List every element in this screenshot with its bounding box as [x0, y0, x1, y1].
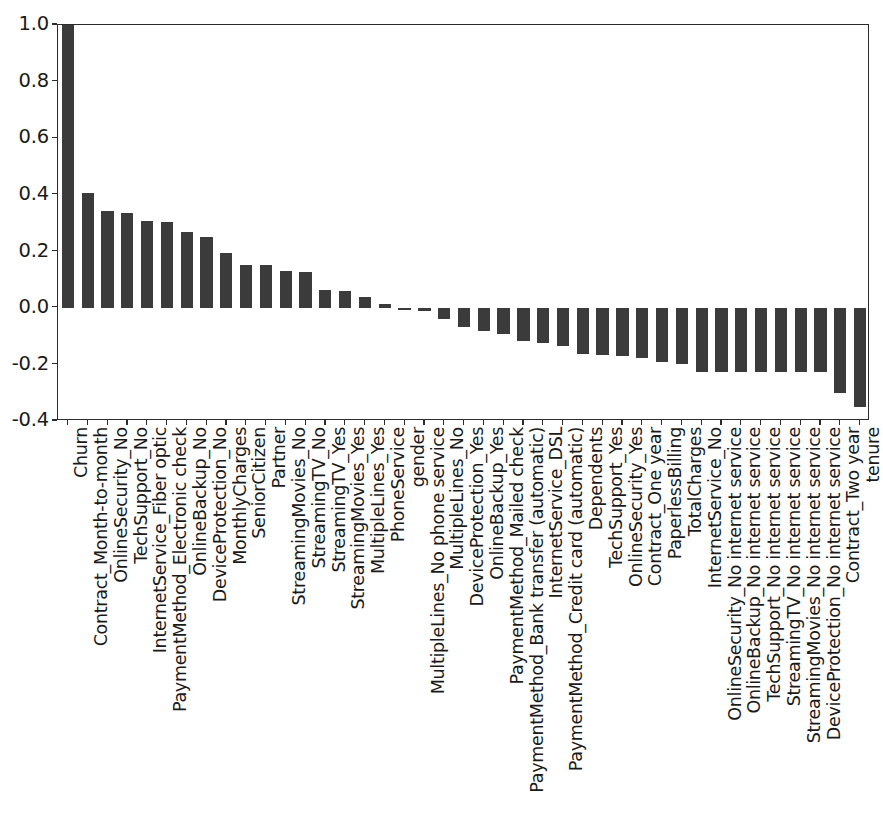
x-axis-tick-label: InternetService_DSL: [548, 427, 566, 599]
y-axis-tick-label: -0.2: [12, 354, 57, 374]
bar: [735, 308, 747, 372]
x-axis-tick-label: TechSupport_Yes: [608, 427, 626, 568]
x-axis-tick-mark: [206, 420, 207, 425]
bar: [795, 308, 807, 372]
bar: [101, 211, 113, 308]
x-axis-tick-label: MultipleLines_No: [449, 427, 467, 570]
x-axis-tick-mark: [661, 420, 662, 425]
bar: [458, 308, 470, 327]
y-axis: 1.00.80.60.40.20.0-0.2-0.4: [0, 24, 57, 420]
x-axis-tick-label: StreamingMovies_No: [291, 427, 309, 605]
x-axis-tick-mark: [740, 420, 741, 425]
bar: [161, 222, 173, 307]
x-axis-tick-label: MonthlyCharges: [232, 427, 250, 565]
x-axis-tick-mark: [344, 420, 345, 425]
x-axis-tick-label: StreamingMovies_Yes: [350, 427, 368, 610]
bar: [62, 25, 74, 308]
bar: [398, 308, 410, 311]
x-axis-tick-mark: [285, 420, 286, 425]
x-axis-tick-label: OnlineBackup_No internet service: [746, 427, 764, 714]
bar: [755, 308, 767, 372]
bar: [596, 308, 608, 355]
x-axis-ticks: [57, 420, 869, 426]
bar: [636, 308, 648, 358]
x-axis-tick-mark: [87, 420, 88, 425]
x-axis-tick-mark: [166, 420, 167, 425]
x-axis-tick-label: PaperlessBilling: [667, 427, 685, 559]
x-axis-tick-mark: [67, 420, 68, 425]
x-axis-tick-label: MultipleLines_No phone service: [430, 427, 448, 694]
x-axis-tick-mark: [146, 420, 147, 425]
bar: [715, 308, 727, 372]
x-axis-tick-mark: [225, 420, 226, 425]
x-axis-tick-label: PaymentMethod_Electronic check: [172, 427, 190, 712]
bar: [537, 308, 549, 343]
x-axis-tick-mark: [582, 420, 583, 425]
bar: [240, 265, 252, 308]
bar: [418, 308, 430, 311]
x-axis-tick-label: PaymentMethod_Credit card (automatic): [568, 427, 586, 771]
x-axis-tick-label: PhoneService: [390, 427, 408, 542]
x-axis-tick-mark: [760, 420, 761, 425]
x-axis-tick-mark: [463, 420, 464, 425]
x-axis-tick-label: DeviceProtection_Yes: [469, 427, 487, 606]
x-axis-tick-label: Contract_Month-to-month: [93, 427, 111, 646]
x-axis-tick-mark: [720, 420, 721, 425]
x-axis-tick-mark: [503, 420, 504, 425]
x-axis-tick-mark: [621, 420, 622, 425]
x-axis-tick-label: Contract_One year: [647, 427, 665, 586]
bar: [379, 304, 391, 307]
bar: [339, 291, 351, 308]
x-axis-tick-mark: [404, 420, 405, 425]
x-axis-tick-label: OnlineBackup_Yes: [489, 427, 507, 580]
x-axis-tick-mark: [423, 420, 424, 425]
bar: [220, 253, 232, 308]
x-axis-tick-label: MultipleLines_Yes: [370, 427, 388, 574]
bar: [775, 308, 787, 372]
x-axis-tick-label: Partner: [271, 427, 289, 489]
x-axis-tick-mark: [107, 420, 108, 425]
x-axis-tick-mark: [839, 420, 840, 425]
x-axis-tick-label: StreamingTV_No: [311, 427, 329, 568]
x-axis-tick-mark: [542, 420, 543, 425]
bar: [834, 308, 846, 393]
x-axis-tick-label: OnlineSecurity_No internet service: [727, 427, 745, 721]
bar: [181, 232, 193, 308]
bar: [616, 308, 628, 356]
x-axis-tick-label: OnlineSecurity_No: [113, 427, 131, 583]
bar: [359, 297, 371, 308]
x-axis-tick-mark: [562, 420, 563, 425]
bar: [121, 213, 133, 308]
bar: [141, 221, 153, 308]
x-axis-tick-mark: [800, 420, 801, 425]
x-axis-tick-label: StreamingTV_Yes: [331, 427, 349, 573]
x-axis-tick-label: PaymentMethod_Mailed check: [509, 427, 527, 684]
x-axis-tick-label: Contract_Two year: [845, 427, 863, 583]
x-axis-tick-mark: [641, 420, 642, 425]
plot-area: [57, 24, 869, 420]
x-axis-tick-mark: [324, 420, 325, 425]
x-axis-tick-label: Dependents: [588, 427, 606, 530]
x-axis-tick-label: InternetService_No: [707, 427, 725, 588]
bar: [814, 308, 826, 372]
x-axis-tick-label: SeniorCitizen: [251, 427, 269, 539]
x-axis-tick-mark: [305, 420, 306, 425]
x-axis-tick-mark: [819, 420, 820, 425]
x-axis-labels: ChurnContract_Month-to-monthOnlineSecuri…: [57, 427, 869, 813]
x-axis-tick-label: OnlineBackup_No: [192, 427, 210, 576]
x-axis-tick-label: InternetService_Fiber optic: [152, 427, 170, 653]
x-axis-tick-mark: [522, 420, 523, 425]
x-axis-tick-label: Churn: [73, 427, 91, 478]
x-axis-tick-mark: [701, 420, 702, 425]
bar: [478, 308, 490, 331]
bar: [438, 308, 450, 319]
bar: [577, 308, 589, 354]
x-axis-tick-mark: [780, 420, 781, 425]
x-axis-tick-mark: [443, 420, 444, 425]
x-axis-tick-label: DeviceProtection_No internet service: [826, 427, 844, 740]
x-axis-tick-mark: [186, 420, 187, 425]
bar: [497, 308, 509, 334]
x-axis-tick-label: tenure: [865, 427, 883, 483]
x-axis-tick-mark: [364, 420, 365, 425]
